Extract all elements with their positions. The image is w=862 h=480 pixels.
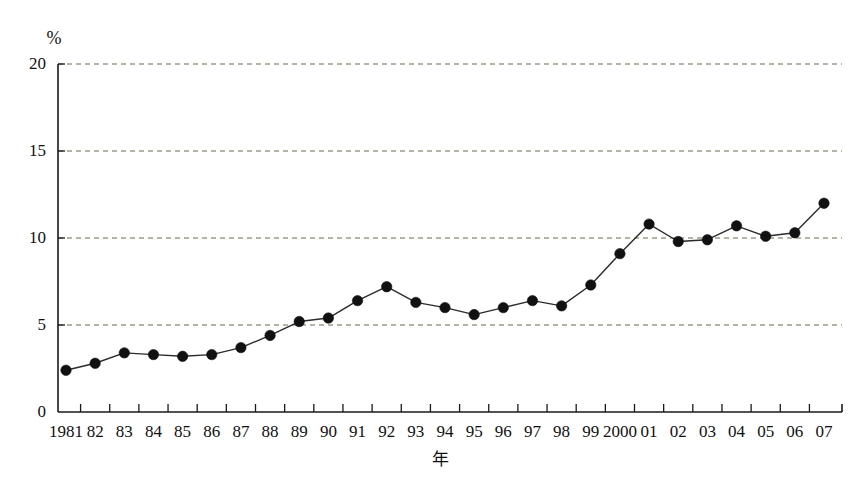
data-point-2000: [615, 248, 625, 258]
x-tick-label-90: 90: [320, 422, 337, 441]
data-point-82: [90, 358, 100, 368]
data-point-05: [760, 231, 770, 241]
data-point-99: [586, 280, 596, 290]
data-point-86: [207, 349, 217, 359]
x-tick-label-05: 05: [757, 422, 774, 441]
x-tick-label-82: 82: [87, 422, 104, 441]
data-point-01: [644, 219, 654, 229]
data-point-97: [527, 295, 537, 305]
data-point-06: [790, 228, 800, 238]
y-tick-label-10: 10: [29, 228, 46, 247]
x-tick-label-1981: 1981: [49, 422, 83, 441]
x-tick-label-97: 97: [524, 422, 542, 441]
data-point-92: [381, 282, 391, 292]
y-tick-label-5: 5: [38, 315, 47, 334]
x-tick-label-96: 96: [495, 422, 512, 441]
x-tick-label-88: 88: [262, 422, 279, 441]
data-point-96: [498, 302, 508, 312]
data-point-90: [323, 313, 333, 323]
y-axis-unit-label: %: [47, 28, 62, 48]
data-point-91: [352, 295, 362, 305]
data-point-98: [556, 301, 566, 311]
x-tick-label-83: 83: [116, 422, 133, 441]
x-tick-label-93: 93: [407, 422, 424, 441]
x-tick-label-84: 84: [145, 422, 163, 441]
x-tick-label-94: 94: [437, 422, 455, 441]
data-point-03: [702, 235, 712, 245]
x-tick-label-01: 01: [641, 422, 658, 441]
x-tick-label-91: 91: [349, 422, 366, 441]
x-tick-label-87: 87: [232, 422, 250, 441]
data-point-83: [119, 348, 129, 358]
y-tick-label-15: 15: [29, 141, 46, 160]
data-point-1981: [61, 365, 71, 375]
y-tick-label-0: 0: [38, 402, 47, 421]
x-tick-label-04: 04: [728, 422, 746, 441]
line-chart: 05101520 1981828384858687888990919293949…: [0, 0, 862, 480]
x-tick-label-86: 86: [203, 422, 220, 441]
data-point-94: [440, 302, 450, 312]
x-tick-label-2000: 2000: [603, 422, 637, 441]
data-point-02: [673, 236, 683, 246]
x-tick-label-89: 89: [291, 422, 308, 441]
x-tick-label-92: 92: [378, 422, 395, 441]
y-tick-label-20: 20: [29, 54, 46, 73]
data-point-93: [411, 297, 421, 307]
x-tick-label-03: 03: [699, 422, 716, 441]
data-point-89: [294, 316, 304, 326]
x-tick-label-06: 06: [786, 422, 803, 441]
x-tick-label-02: 02: [670, 422, 687, 441]
data-point-84: [148, 349, 158, 359]
chart-container: 05101520 1981828384858687888990919293949…: [0, 0, 862, 480]
data-point-85: [177, 351, 187, 361]
data-point-88: [265, 330, 275, 340]
x-axis-title: 年: [432, 450, 449, 469]
x-tick-label-07: 07: [816, 422, 834, 441]
data-point-04: [731, 221, 741, 231]
data-point-07: [819, 198, 829, 208]
data-point-95: [469, 309, 479, 319]
x-tick-label-98: 98: [553, 422, 570, 441]
x-tick-label-85: 85: [174, 422, 191, 441]
x-tick-label-95: 95: [466, 422, 483, 441]
x-tick-label-99: 99: [582, 422, 599, 441]
data-point-87: [236, 342, 246, 352]
